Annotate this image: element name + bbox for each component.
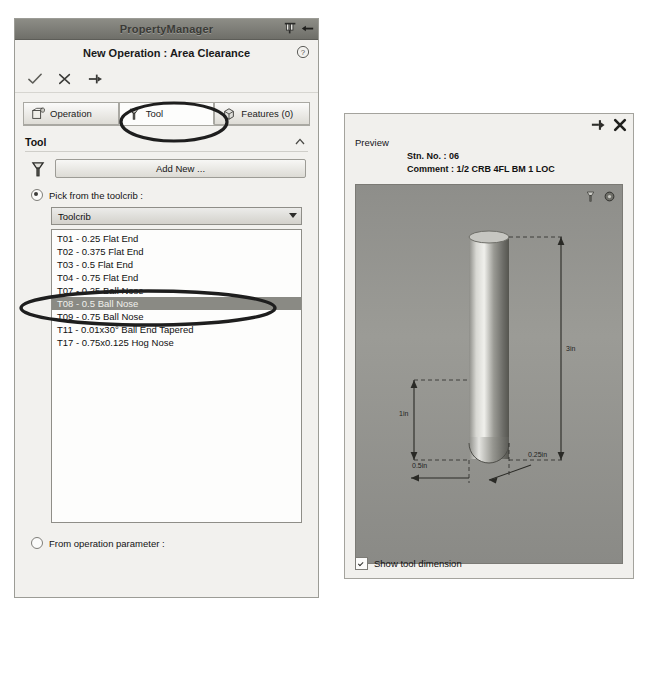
preview-metadata: Stn. No. : 06 Comment : 1/2 CRB 4FL BM 1… [407,150,555,176]
add-new-button[interactable]: Add New ... [55,159,306,178]
list-item[interactable]: T07 - 0.25 Ball Nose [52,284,301,297]
chevron-down-icon[interactable] [289,213,297,218]
arrow-left-icon[interactable] [301,22,314,35]
station-label: Stn. No. : [407,151,447,161]
window-title: PropertyManager [120,23,213,35]
preview-label: Preview [355,137,389,148]
from-operation-label: From operation parameter : [49,538,165,549]
tab-tool[interactable]: Tool [119,102,215,125]
from-operation-radio-row[interactable]: From operation parameter : [31,537,318,549]
dimension-length-label: 3in [566,345,575,352]
list-item[interactable]: T03 - 0.5 Flat End [52,258,301,271]
station-value: 06 [449,151,459,161]
ball-end-mill-drawing [356,185,622,563]
pin-icon[interactable] [87,72,103,86]
list-item[interactable]: T11 - 0.01x30° Ball End Tapered [52,323,301,336]
tab-bar: Operation Tool Features (0) [23,102,310,125]
tool-section-title: Tool [25,136,46,148]
svg-text:?: ? [301,48,306,57]
pick-toolcrib-radio[interactable] [31,189,43,201]
pick-toolcrib-radio-row[interactable]: Pick from the toolcrib : [31,189,318,201]
tool-preview-image[interactable]: 3in 1in 0.5in 0.25in [355,184,623,564]
chevron-up-icon[interactable] [294,136,306,148]
property-manager-titlebar: PropertyManager [15,19,318,40]
pin-icon[interactable] [284,22,297,35]
dimension-flute-length-label: 1in [399,410,408,417]
page-title: New Operation : Area Clearance [83,47,250,59]
section-divider [25,151,308,152]
preview-panel: Preview Stn. No. : 06 Comment : 1/2 CRB … [344,113,634,579]
close-x-icon[interactable] [613,118,627,132]
pin-icon[interactable] [591,118,605,132]
comment-value: 1/2 CRB 4FL BM 1 LOC [457,164,555,174]
tool-listbox[interactable]: T01 - 0.25 Flat EndT02 - 0.375 Flat EndT… [51,229,302,523]
show-tool-dimension-checkbox[interactable] [355,557,368,570]
toolcrib-select[interactable]: Toolcrib [51,207,302,225]
preview-titlebar-icons [591,118,627,132]
list-item[interactable]: T04 - 0.75 Flat End [52,271,301,284]
cancel-x-icon[interactable] [57,72,73,86]
list-item[interactable]: T09 - 0.75 Ball Nose [52,310,301,323]
list-item[interactable]: T02 - 0.375 Flat End [52,245,301,258]
tab-underline [23,125,310,126]
action-toolbar [15,66,318,93]
comment-row: Comment : 1/2 CRB 4FL BM 1 LOC [407,163,555,176]
station-row: Stn. No. : 06 [407,150,555,163]
features-icon [222,107,236,121]
toolcrib-select-value: Toolcrib [52,211,91,222]
show-tool-dimension-row[interactable]: Show tool dimension [355,557,462,570]
list-item[interactable]: T08 - 0.5 Ball Nose [52,297,301,310]
tab-operation[interactable]: Operation [23,102,119,125]
accept-check-icon[interactable] [27,72,43,86]
tool-section-header: Tool [25,136,308,148]
tab-features-label: Features (0) [241,108,293,119]
list-item[interactable]: T01 - 0.25 Flat End [52,232,301,245]
comment-label: Comment : [407,164,454,174]
add-new-label: Add New ... [156,163,205,174]
operation-icon [31,107,45,121]
dimension-diameter-label: 0.5in [412,462,427,469]
tool-icon [127,107,141,121]
titlebar-icon-group [284,22,314,35]
help-icon[interactable]: ? [296,45,310,59]
tab-operation-label: Operation [50,108,92,119]
dimension-radius-label: 0.25in [528,451,547,458]
show-tool-dimension-label: Show tool dimension [374,558,462,569]
panel-header: New Operation : Area Clearance ? [15,40,318,66]
from-operation-radio[interactable] [31,537,43,549]
tab-features[interactable]: Features (0) [214,102,310,125]
add-new-row: Add New ... [29,159,306,178]
list-item[interactable]: T17 - 0.75x0.125 Hog Nose [52,336,301,349]
property-manager-panel: PropertyManager New Operation : Area Cle… [14,18,319,598]
tool-icon [29,160,47,178]
tab-tool-label: Tool [146,108,163,119]
screenshot-root: PropertyManager New Operation : Area Cle… [0,0,648,679]
pick-toolcrib-label: Pick from the toolcrib : [49,190,143,201]
